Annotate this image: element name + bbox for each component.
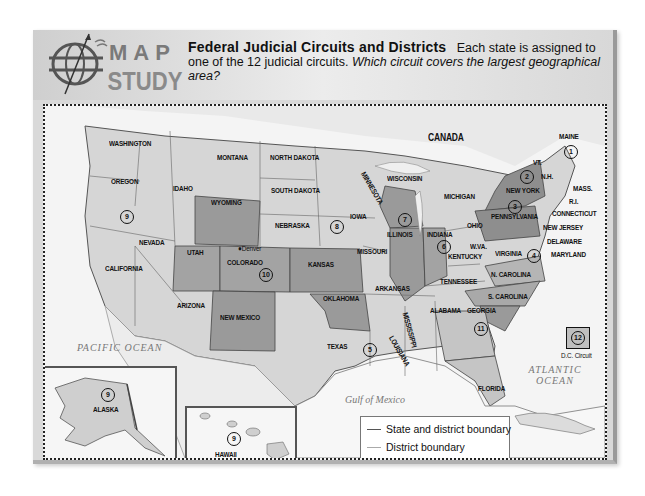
circuit-12-marker: 12 xyxy=(571,331,585,345)
label-new-mexico: NEW MEXICO xyxy=(220,313,260,322)
label-delaware: DELAWARE xyxy=(547,237,582,246)
map-legend: State and district boundary District bou… xyxy=(360,416,510,460)
circuit-9-marker: 9 xyxy=(120,210,134,224)
label-california: CALIFORNIA xyxy=(105,264,143,273)
label-new-hampshire: N.H. xyxy=(541,172,553,181)
circuit-9-alaska-marker: 9 xyxy=(101,388,115,402)
alaska-shape xyxy=(45,368,175,460)
label-michigan: MICHIGAN xyxy=(444,192,475,201)
label-atlantic-ocean: ATLANTIC OCEAN xyxy=(520,364,590,386)
label-n-carolina: N. CAROLINA xyxy=(491,270,531,279)
circuit-11-marker: 11 xyxy=(474,322,488,336)
legend-judicial-circuits: 11 Judicial circuits xyxy=(367,459,457,460)
label-colorado: COLORADO xyxy=(227,258,263,267)
circuit-number-icon: 11 xyxy=(367,459,381,460)
us-map: CANADA PACIFIC OCEAN ATLANTIC OCEAN Gulf… xyxy=(43,104,607,460)
map-study-logo: MAP STUDY xyxy=(43,32,183,96)
circuit-8-marker: 8 xyxy=(330,220,344,234)
circuit-6-marker: 6 xyxy=(437,240,451,254)
label-arkansas: ARKANSAS xyxy=(375,284,410,293)
label-wyoming: WYOMING xyxy=(211,198,242,207)
circuit-2-marker: 2 xyxy=(520,170,534,184)
label-alaska: ALASKA xyxy=(93,405,119,414)
globe-icon xyxy=(49,34,107,94)
label-connecticut: CONNECTICUT xyxy=(552,209,597,218)
label-south-dakota: SOUTH DAKOTA xyxy=(271,186,320,195)
label-texas: TEXAS xyxy=(327,342,347,351)
hawaii-shape xyxy=(187,408,295,460)
state-boundary-line-icon xyxy=(367,429,381,430)
alaska-inset: 9 ALASKA xyxy=(43,366,177,460)
label-hawaii: HAWAII xyxy=(215,450,237,459)
label-virginia: VIRGINIA xyxy=(495,249,522,258)
label-new-york: NEW YORK xyxy=(506,186,540,195)
label-missouri: MISSOURI xyxy=(357,247,387,256)
circuit-3-marker: 3 xyxy=(508,200,522,214)
label-nebraska: NEBRASKA xyxy=(275,221,310,230)
label-mass: MASS. xyxy=(573,184,592,193)
label-wisconsin: WISCONSIN xyxy=(387,174,422,183)
label-tennessee: TENNESSEE xyxy=(440,277,477,286)
label-florida: FLORIDA xyxy=(478,384,505,393)
label-north-dakota: NORTH DAKOTA xyxy=(270,153,319,162)
label-utah: UTAH xyxy=(187,248,204,257)
district-boundary-line-icon xyxy=(367,447,381,448)
header: MAP STUDY Federal Judicial Circuits and … xyxy=(33,30,613,100)
label-ohio: OHIO xyxy=(467,221,483,230)
label-vermont: VT. xyxy=(533,158,542,167)
map-title: Federal Judicial Circuits and Districts xyxy=(188,39,446,55)
label-maine: MAINE xyxy=(559,132,579,141)
label-indiana: INDIANA xyxy=(427,230,452,239)
label-new-jersey: NEW JERSEY xyxy=(543,223,583,232)
legend-state-boundary: State and district boundary xyxy=(367,423,511,435)
label-oregon: OREGON xyxy=(111,177,138,186)
title-block: Federal Judicial Circuits and Districts … xyxy=(188,40,608,83)
hawaii-inset: 9 HAWAII xyxy=(185,406,297,460)
label-s-carolina: S. CAROLINA xyxy=(488,292,528,301)
label-illinois: ILLINOIS xyxy=(387,230,413,239)
label-iowa: IOWA xyxy=(350,212,366,221)
label-pacific-ocean: PACIFIC OCEAN xyxy=(77,342,162,353)
label-georgia: GEORGIA xyxy=(467,306,496,315)
label-montana: MONTANA xyxy=(217,153,248,162)
label-washington: WASHINGTON xyxy=(109,139,151,148)
circuit-10-marker: 10 xyxy=(259,268,273,282)
label-kentucky: KENTUCKY xyxy=(448,252,482,261)
label-ri: R.I. xyxy=(569,197,578,206)
label-w-va: W.VA. xyxy=(470,242,487,251)
legend-district-boundary: District boundary xyxy=(367,441,465,453)
label-alabama: ALABAMA xyxy=(430,306,461,315)
circuit-7-marker: 7 xyxy=(398,213,412,227)
svg-text:MAP: MAP xyxy=(109,40,176,65)
label-oklahoma: OKLAHOMA xyxy=(323,294,359,303)
label-nevada: NEVADA xyxy=(139,238,164,247)
label-denver: ●Denver xyxy=(238,244,261,253)
circuit-9-hawaii-marker: 9 xyxy=(227,432,241,446)
label-canada: CANADA xyxy=(428,132,464,143)
label-arizona: ARIZONA xyxy=(177,301,205,310)
map-study-panel: MAP STUDY Federal Judicial Circuits and … xyxy=(33,30,617,464)
label-dc-circuit: D.C. Circuit xyxy=(561,351,592,360)
circuit-4-marker: 4 xyxy=(527,249,541,263)
circuit-5-marker: 5 xyxy=(363,343,377,357)
label-gulf-of-mexico: Gulf of Mexico xyxy=(345,394,405,405)
circuit-1-marker: 1 xyxy=(564,145,578,159)
label-idaho: IDAHO xyxy=(173,184,193,193)
svg-text:STUDY: STUDY xyxy=(108,66,183,95)
label-maryland: MARYLAND xyxy=(551,250,586,259)
label-kansas: KANSAS xyxy=(308,260,334,269)
